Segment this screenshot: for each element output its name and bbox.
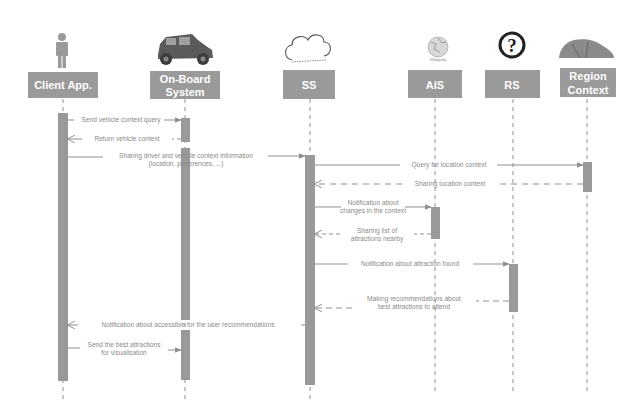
- message-label: Send the best attractions: [88, 341, 162, 348]
- participant-ss: SS: [283, 70, 335, 99]
- activation-ais: [431, 207, 440, 239]
- cloud-icon: [286, 35, 331, 62]
- message-label: best attractions to attend: [378, 303, 451, 310]
- participant-region-context: Region Context: [560, 68, 616, 97]
- participant-client-app: Client App.: [28, 72, 98, 98]
- message-label: for visualisation: [101, 349, 147, 356]
- message-label: Notification about: [348, 199, 399, 206]
- activation-on-board-system-1: [181, 118, 190, 142]
- activation-ss: [305, 155, 315, 385]
- message-label: (location, preferences, ...): [149, 160, 224, 168]
- participant-label: On-Board: [160, 73, 211, 85]
- participant-rs: RS: [485, 70, 540, 98]
- participant-on-board-system: On-Board System: [150, 71, 220, 99]
- activation-client-app: [58, 113, 68, 381]
- activation-region-context: [583, 162, 592, 192]
- message-label: Sharing list of: [357, 227, 397, 235]
- participant-label: RS: [504, 79, 519, 91]
- question-mark-icon: ?: [500, 33, 524, 57]
- person-icon: [56, 33, 68, 68]
- message-label: Send vehicle context query: [81, 116, 161, 124]
- participant-ais: AIS: [408, 70, 462, 98]
- activation-on-board-system-3: [181, 330, 190, 380]
- participant-label: AIS: [426, 79, 444, 91]
- message-label: Making recommendations about: [367, 295, 461, 303]
- message-label: Query for location context: [411, 161, 486, 169]
- participant-label: Client App.: [34, 79, 92, 91]
- participant-label: SS: [302, 79, 317, 91]
- participant-label: System: [165, 86, 204, 98]
- message-label: attractions nearby: [351, 235, 404, 243]
- svg-text:?: ?: [507, 35, 517, 56]
- message-label: Notification about accessible for the us…: [102, 321, 276, 328]
- message-label: Sharing driver and vehicle context infor…: [119, 152, 253, 160]
- sequence-diagram: Wikipedia ? Client App. On-Board System …: [0, 0, 640, 417]
- wikipedia-globe-icon: Wikipedia: [428, 37, 448, 62]
- terrain-icon: [559, 39, 614, 58]
- message-label: Return vehicle context: [94, 135, 159, 142]
- message-label: changes in the context: [340, 207, 406, 215]
- participant-label: Region: [569, 70, 607, 82]
- message-label: Notification about attraction found: [361, 260, 460, 267]
- svg-text:Wikipedia: Wikipedia: [430, 57, 447, 62]
- activation-on-board-system-2: [181, 148, 190, 320]
- message-label: Sharing location context: [415, 180, 486, 188]
- activation-rs: [509, 264, 518, 312]
- participant-label: Context: [568, 84, 609, 96]
- vintage-car-icon: [158, 34, 213, 65]
